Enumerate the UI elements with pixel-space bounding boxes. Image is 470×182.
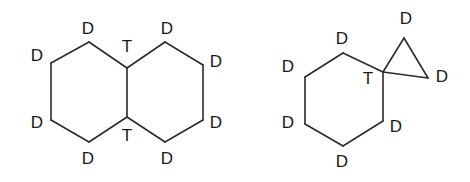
bond-r1 xyxy=(305,53,343,77)
atom-label-right-lower-right-d: D xyxy=(210,113,222,132)
atom-label-hex-bottom-d: D xyxy=(336,152,348,171)
bond-r4 xyxy=(305,124,343,146)
atom-label-left-top-d: D xyxy=(82,19,94,38)
atom-label-spiro-t: T xyxy=(363,69,373,88)
bond-b8 xyxy=(165,42,203,65)
spiro-cyclopropane-structure-labels: DDDDDTDD xyxy=(282,9,448,171)
bond-r9 xyxy=(383,72,428,78)
bond-r8 xyxy=(404,38,428,78)
atom-label-right-upper-right-d: D xyxy=(210,52,222,71)
atom-label-hex-lower-left-d: D xyxy=(282,113,294,132)
bond-b7 xyxy=(127,42,165,68)
bond-r5 xyxy=(343,121,383,146)
atom-label-left-upper-left-d: D xyxy=(31,46,43,65)
atom-label-hex-top-d: D xyxy=(336,29,348,48)
bond-r7 xyxy=(383,38,404,72)
spiro-cyclopropane-structure-bonds xyxy=(305,38,428,146)
atom-label-left-bottom-d: D xyxy=(82,149,94,168)
figure-canvas: DDDDTTDDDD DDDDDTDD xyxy=(0,0,470,182)
atom-label-right-bottom-d: D xyxy=(161,149,173,168)
bond-b1 xyxy=(51,42,89,63)
atom-label-right-top-d: D xyxy=(161,19,173,38)
atom-label-hex-lower-right-d: D xyxy=(390,117,402,136)
atom-label-left-bridge-bottom-t: T xyxy=(122,126,132,145)
bond-b11 xyxy=(127,117,165,142)
atom-label-hex-upper-left-d: D xyxy=(282,57,294,76)
chemical-structures-diagram: DDDDTTDDDD DDDDDTDD xyxy=(0,0,470,182)
atom-label-cp-right-d: D xyxy=(436,67,448,86)
atom-label-left-lower-left-d: D xyxy=(31,113,43,132)
bond-b4 xyxy=(51,120,89,142)
atom-label-left-bridge-top-t: T xyxy=(122,37,132,56)
atom-label-cp-top-d: D xyxy=(400,9,412,28)
bond-b10 xyxy=(165,120,203,142)
